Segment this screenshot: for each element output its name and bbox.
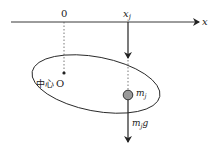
mass-mj [123, 90, 133, 100]
mass-label: mj [136, 88, 147, 100]
center-label: 中心O [36, 78, 64, 89]
gravity-force-label: mjg [132, 118, 149, 130]
diagram-canvas: x 0 xj 中心O mj mjg [0, 0, 220, 149]
position-xj-label: xj [123, 8, 132, 21]
origin-label: 0 [61, 8, 67, 19]
center-point [62, 71, 65, 74]
x-axis-label: x [202, 16, 208, 27]
